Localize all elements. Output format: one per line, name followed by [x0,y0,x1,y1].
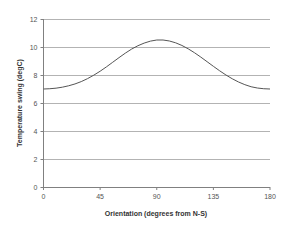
x-tick-label: 180 [264,193,276,200]
chart-svg: 024681012 04590135180 Orientation (degre… [0,0,288,227]
y-tick-label: 12 [30,16,38,23]
x-tick-label: 135 [208,193,220,200]
y-axis-title: Temperature swing (degC) [16,59,24,147]
y-tick-label: 0 [34,184,38,191]
x-tick-label: 45 [96,193,104,200]
chart-container: 024681012 04590135180 Orientation (degre… [0,0,288,227]
y-tick-label: 10 [30,44,38,51]
x-tick-label: 0 [42,193,46,200]
x-tick-label: 90 [153,193,161,200]
y-tick-label: 4 [34,128,38,135]
y-tick-label: 2 [34,156,38,163]
y-tick-label: 8 [34,72,38,79]
x-axis-title: Orientation (degrees from N-S) [105,210,207,218]
y-tick-label: 6 [34,100,38,107]
